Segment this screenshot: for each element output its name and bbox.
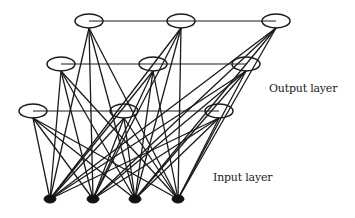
output-layer-nodes — [19, 14, 290, 118]
connection-line — [178, 118, 219, 199]
neural-network-diagram — [0, 0, 355, 218]
input-node — [44, 195, 56, 203]
connection-line — [89, 28, 135, 199]
input-node — [87, 195, 99, 203]
input-layer-nodes — [44, 195, 184, 203]
connection-line — [50, 71, 61, 199]
input-node — [172, 195, 184, 203]
output-row-lines — [33, 21, 276, 111]
output-layer-label: Output layer — [269, 82, 337, 95]
connection-line — [135, 118, 219, 199]
input-layer-label: Input layer — [213, 171, 272, 184]
input-node — [129, 195, 141, 203]
